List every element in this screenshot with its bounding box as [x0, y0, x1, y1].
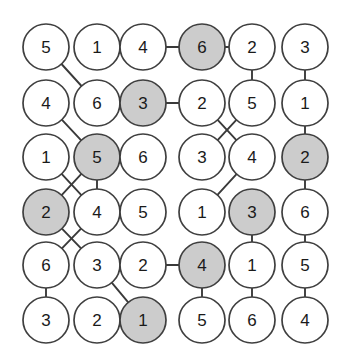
graph-edge: [112, 283, 128, 303]
graph-node[interactable]: 2: [229, 24, 275, 70]
node-circle-plain[interactable]: [282, 297, 328, 343]
node-circle-plain[interactable]: [23, 134, 69, 180]
graph-node[interactable]: 4: [120, 24, 166, 70]
node-circle-plain[interactable]: [179, 134, 225, 180]
graph-node[interactable]: 1: [229, 242, 275, 288]
node-circle-plain[interactable]: [282, 242, 328, 288]
graph-node[interactable]: 1: [282, 80, 328, 126]
graph-node[interactable]: 2: [120, 242, 166, 288]
node-circle-shaded[interactable]: [120, 80, 166, 126]
graph-node[interactable]: 3: [282, 24, 328, 70]
graph-node[interactable]: 5: [23, 24, 69, 70]
graph-canvas: 514623463251156342245136632415321564: [0, 0, 350, 363]
graph-node[interactable]: 4: [179, 242, 225, 288]
graph-node[interactable]: 4: [229, 134, 275, 180]
graph-node[interactable]: 5: [229, 80, 275, 126]
graph-edge: [62, 120, 81, 141]
node-circle-plain[interactable]: [229, 134, 275, 180]
node-circle-plain[interactable]: [120, 189, 166, 235]
graph-node[interactable]: 5: [179, 297, 225, 343]
graph-edge: [217, 174, 236, 195]
graph-node[interactable]: 2: [282, 134, 328, 180]
node-circle-plain[interactable]: [120, 242, 166, 288]
graph-node[interactable]: 6: [179, 24, 225, 70]
graph-node[interactable]: 1: [23, 134, 69, 180]
node-circle-plain[interactable]: [74, 242, 120, 288]
node-circle-shaded[interactable]: [74, 134, 120, 180]
node-circle-plain[interactable]: [120, 24, 166, 70]
graph-node[interactable]: 6: [229, 297, 275, 343]
node-circle-plain[interactable]: [74, 297, 120, 343]
graph-node[interactable]: 6: [23, 242, 69, 288]
node-circle-plain[interactable]: [74, 80, 120, 126]
node-circle-plain[interactable]: [282, 24, 328, 70]
graph-node[interactable]: 2: [179, 80, 225, 126]
node-circle-shaded[interactable]: [23, 189, 69, 235]
node-circle-plain[interactable]: [282, 189, 328, 235]
node-circle-plain[interactable]: [74, 24, 120, 70]
graph-node[interactable]: 2: [23, 189, 69, 235]
node-grid-graph-figure: 514623463251156342245136632415321564: [0, 0, 350, 363]
node-circle-plain[interactable]: [23, 24, 69, 70]
graph-node[interactable]: 1: [179, 189, 225, 235]
graph-edge: [61, 64, 81, 86]
node-circle-plain[interactable]: [120, 134, 166, 180]
node-circle-plain[interactable]: [179, 189, 225, 235]
node-circle-shaded[interactable]: [179, 24, 225, 70]
node-circle-shaded[interactable]: [229, 189, 275, 235]
node-circle-plain[interactable]: [229, 80, 275, 126]
node-circle-plain[interactable]: [229, 297, 275, 343]
graph-node[interactable]: 6: [120, 134, 166, 180]
graph-node[interactable]: 1: [74, 24, 120, 70]
graph-node[interactable]: 3: [179, 134, 225, 180]
node-circle-shaded[interactable]: [282, 134, 328, 180]
node-circle-plain[interactable]: [229, 242, 275, 288]
graph-node[interactable]: 4: [282, 297, 328, 343]
graph-node[interactable]: 5: [120, 189, 166, 235]
graph-node[interactable]: 3: [120, 80, 166, 126]
graph-node[interactable]: 3: [229, 189, 275, 235]
node-circle-plain[interactable]: [23, 242, 69, 288]
node-circle-shaded[interactable]: [120, 297, 166, 343]
node-circle-plain[interactable]: [74, 189, 120, 235]
node-circle-plain[interactable]: [23, 297, 69, 343]
node-circle-plain[interactable]: [179, 297, 225, 343]
node-circle-plain[interactable]: [282, 80, 328, 126]
graph-node[interactable]: 6: [282, 189, 328, 235]
node-circle-plain[interactable]: [23, 80, 69, 126]
graph-node[interactable]: 4: [23, 80, 69, 126]
node-circle-plain[interactable]: [179, 80, 225, 126]
node-circle-shaded[interactable]: [179, 242, 225, 288]
graph-node[interactable]: 2: [74, 297, 120, 343]
graph-node[interactable]: 5: [282, 242, 328, 288]
graph-node[interactable]: 3: [23, 297, 69, 343]
node-circle-plain[interactable]: [229, 24, 275, 70]
graph-node[interactable]: 3: [74, 242, 120, 288]
graph-node[interactable]: 6: [74, 80, 120, 126]
graph-node[interactable]: 4: [74, 189, 120, 235]
graph-node[interactable]: 1: [120, 297, 166, 343]
graph-node[interactable]: 5: [74, 134, 120, 180]
